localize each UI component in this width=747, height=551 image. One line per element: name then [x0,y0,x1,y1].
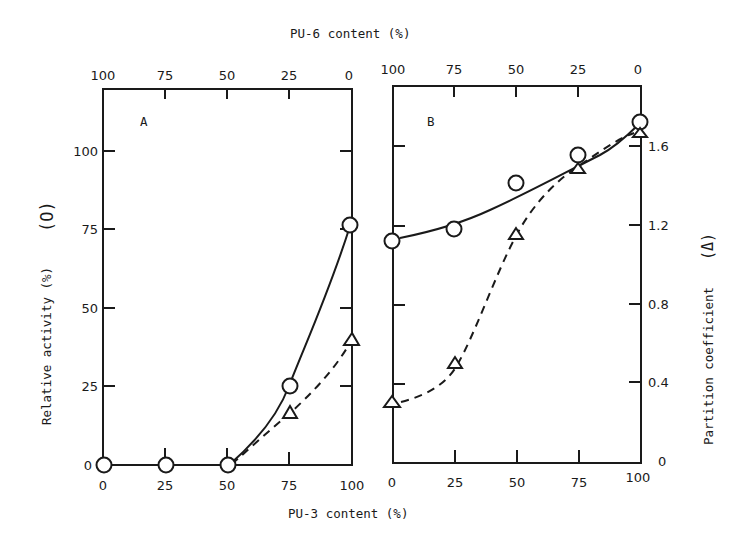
svg-text:100: 100 [381,62,406,77]
svg-text:50: 50 [509,475,526,490]
marker-triangle [509,228,523,239]
svg-text:75: 75 [157,68,174,83]
panel-a-activity-markers [97,218,358,473]
left-axis-title: Relative activity (%) [39,267,54,425]
svg-text:25: 25 [447,475,464,490]
svg-text:25: 25 [281,68,298,83]
marker-circle [283,379,298,394]
svg-text:1.2: 1.2 [648,218,669,233]
svg-text:0.8: 0.8 [648,297,669,312]
svg-text:50: 50 [81,301,98,316]
bottom-axis-title: PU-3 content (%) [288,506,408,521]
svg-text:100: 100 [73,144,98,159]
panel-b-partition-curve [401,133,634,402]
panel-b: B 100 75 50 25 0 1.6 [381,62,669,490]
svg-text:100: 100 [340,478,365,493]
svg-text:25: 25 [81,379,98,394]
svg-text:75: 75 [571,475,588,490]
panel-b-bottom-ticks [455,450,579,463]
marker-circle [509,176,524,191]
top-axis-title: PU-6 content (%) [290,26,410,41]
marker-circle [159,458,174,473]
right-axis-title-group: Partition coefficient (Δ) [699,233,717,445]
svg-text:75: 75 [281,478,298,493]
panel-b-partition-markers [384,128,647,407]
panel-b-top-tick-labels: 100 75 50 25 0 [381,62,643,77]
figure: PU-6 content (%) A 100 75 50 25 0 100 75 [0,0,747,551]
svg-text:25: 25 [570,62,587,77]
left-axis-title-group: Relative activity (%) (O) [37,201,57,425]
marker-circle [97,458,112,473]
panel-b-top-ticks [454,86,578,97]
marker-circle [447,222,462,237]
svg-text:100: 100 [91,68,116,83]
svg-text:50: 50 [219,478,236,493]
panel-b-frame [393,86,641,463]
svg-text:0: 0 [99,478,107,493]
marker-triangle [633,128,647,137]
svg-text:75: 75 [81,222,98,237]
svg-text:0: 0 [388,475,396,490]
panel-b-left-ticks [393,146,405,384]
marker-triangle [384,396,400,407]
svg-text:100: 100 [626,470,651,485]
marker-circle [385,234,400,249]
svg-text:0: 0 [84,458,92,473]
right-axis-symbol: (Δ) [699,233,717,260]
panel-a-top-tick-labels: 100 75 50 25 0 [91,68,354,83]
panel-b-bottom-tick-labels: 0 25 50 75 100 [388,470,651,490]
panel-a-bottom-tick-labels: 0 25 50 75 100 [99,478,365,493]
panel-a-label: A [140,114,148,129]
panel-a-activity-curve [229,226,350,465]
marker-circle [221,458,236,473]
svg-text:25: 25 [157,478,174,493]
svg-text:0.4: 0.4 [648,375,669,390]
panel-b-label: B [427,114,435,129]
left-axis-symbol: (O) [37,201,57,232]
panel-b-right-tick-labels: 1.6 1.2 0.8 0.4 0 [648,139,669,469]
right-axis-title: Partition coefficient [701,287,716,445]
marker-circle [343,218,358,233]
marker-triangle [344,333,359,345]
panel-a-top-ticks [165,89,289,99]
svg-text:75: 75 [446,62,463,77]
panel-a-left-tick-labels: 100 75 50 25 0 [73,144,98,473]
marker-circle [571,148,586,163]
svg-text:50: 50 [508,62,525,77]
panel-a: A 100 75 50 25 0 100 75 50 25 0 [73,68,364,493]
panel-a-left-ticks [103,151,115,386]
panel-a-frame [103,89,352,465]
svg-text:50: 50 [219,68,236,83]
panel-b-right-ticks [629,146,641,382]
panel-a-partition-markers [283,333,359,418]
svg-text:0: 0 [658,454,666,469]
svg-text:0: 0 [345,68,353,83]
svg-text:0: 0 [634,62,642,77]
svg-text:1.6: 1.6 [648,139,669,154]
